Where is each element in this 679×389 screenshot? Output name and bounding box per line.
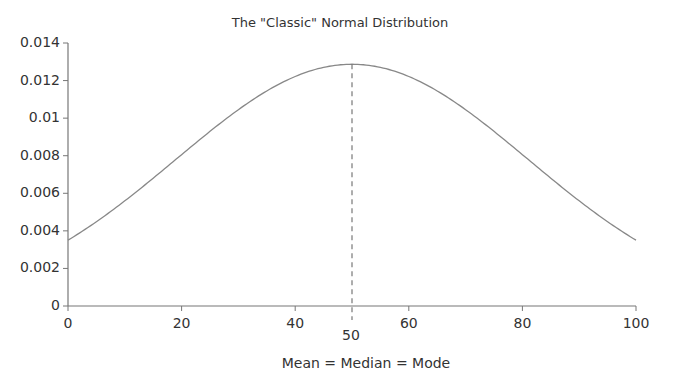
normal-curve (68, 64, 636, 240)
y-tick-label: 0.014 (20, 34, 60, 50)
x-tick-label: 20 (173, 315, 191, 331)
x-tick-label: 100 (623, 315, 650, 331)
chart-title: The "Classic" Normal Distribution (232, 15, 448, 30)
x-tick-label: 80 (513, 315, 531, 331)
x-axis-label: Mean = Median = Mode (282, 355, 450, 371)
y-tick-label: 0.012 (20, 72, 60, 88)
y-tick-label: 0.006 (20, 184, 60, 200)
y-tick-label: 0.004 (20, 222, 60, 238)
chart: The "Classic" Normal Distribution Mean =… (0, 0, 679, 389)
x-tick-label: 40 (286, 315, 304, 331)
y-tick-label: 0 (51, 297, 60, 313)
mean-annotation-label: 50 (342, 327, 360, 343)
y-tick-label: 0.008 (20, 147, 60, 163)
y-tick-label: 0.002 (20, 259, 60, 275)
x-tick-label: 60 (400, 315, 418, 331)
plot-area (0, 0, 679, 389)
x-tick-label: 0 (64, 315, 73, 331)
y-tick-label: 0.01 (29, 109, 60, 125)
